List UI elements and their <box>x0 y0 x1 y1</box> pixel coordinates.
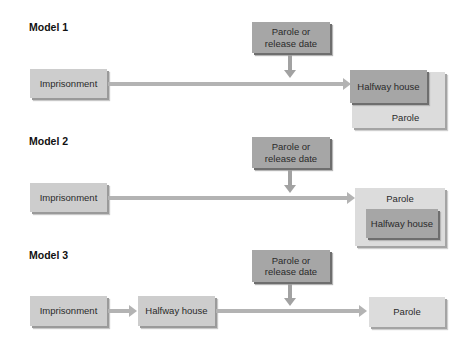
model-3-short-connector-line <box>108 309 130 313</box>
model-3-connector-line <box>216 309 360 313</box>
model-3-down-arrow-icon <box>284 298 296 306</box>
model-2-arrowhead-icon <box>347 192 355 204</box>
model-3-parole-date-line2: release date <box>265 266 317 277</box>
model-3-down-line <box>288 284 292 299</box>
model-3-parole-date-line1: Parole or <box>272 255 311 266</box>
model-1-halfway-house-box: Halfway house <box>350 70 427 103</box>
model-1-connector-line <box>108 82 344 86</box>
model-3-parole-box: Parole <box>369 297 445 327</box>
model-3-label: Model 3 <box>29 249 68 261</box>
model-2-parole-date-line1: Parole or <box>272 141 311 152</box>
model-2-imprisonment-box: Imprisonment <box>30 183 107 212</box>
model-1-parole-date-box: Parole or release date <box>252 22 330 53</box>
model-2-down-arrow-icon <box>284 185 296 193</box>
model-2-label: Model 2 <box>29 135 68 147</box>
model-3-halfway-house-box: Halfway house <box>138 296 215 326</box>
model-1-down-arrow-icon <box>284 70 296 78</box>
model-1-down-line <box>288 55 292 71</box>
model-1-label: Model 1 <box>29 21 68 33</box>
model-3-parole-date-box: Parole or release date <box>252 250 330 282</box>
model-2-parole-label: Parole <box>386 193 413 204</box>
model-2-down-line <box>288 170 292 186</box>
model-2-parole-date-box: Parole or release date <box>252 137 330 168</box>
model-2-parole-date-line2: release date <box>265 153 317 164</box>
model-3-arrowhead-icon <box>359 305 367 317</box>
model-2-halfway-house-box: Halfway house <box>366 209 438 238</box>
model-3-imprisonment-box: Imprisonment <box>30 296 107 326</box>
model-2-connector-line <box>108 196 348 200</box>
model-3-short-arrowhead-icon <box>129 305 137 317</box>
model-1-parole-date-line2: release date <box>265 38 317 49</box>
model-1-imprisonment-box: Imprisonment <box>30 69 107 98</box>
model-1-parole-date-line1: Parole or <box>272 26 311 37</box>
